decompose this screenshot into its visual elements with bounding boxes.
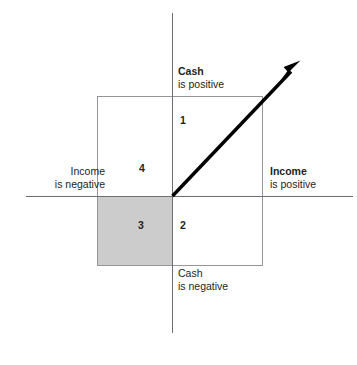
axis-label-income-negative: Income is negative	[10, 165, 105, 191]
quadrant-number-4: 4	[139, 163, 145, 174]
axis-label-cash-positive-title: Cash	[178, 65, 224, 78]
axis-label-income-negative-title: Income	[10, 165, 105, 178]
axis-label-income-positive: Income is positive	[270, 165, 316, 191]
quadrant-number-1: 1	[180, 115, 186, 126]
shaded-quadrant-3-region	[98, 197, 173, 266]
axis-label-income-negative-subtitle: is negative	[10, 178, 105, 191]
axis-label-cash-positive: Cash is positive	[178, 65, 224, 91]
axis-label-cash-negative: Cash is negative	[178, 267, 228, 293]
quadrant-number-3: 3	[138, 220, 144, 231]
axis-label-cash-positive-subtitle: is positive	[178, 78, 224, 91]
axis-label-cash-negative-subtitle: is negative	[178, 280, 228, 293]
axis-label-cash-negative-title: Cash	[178, 267, 228, 280]
axis-label-income-positive-subtitle: is positive	[270, 178, 316, 191]
quadrant-number-2: 2	[180, 220, 186, 231]
axis-label-income-positive-title: Income	[270, 165, 316, 178]
quadrant-diagram-figure: Cash is positive Cash is negative Income…	[0, 0, 357, 365]
